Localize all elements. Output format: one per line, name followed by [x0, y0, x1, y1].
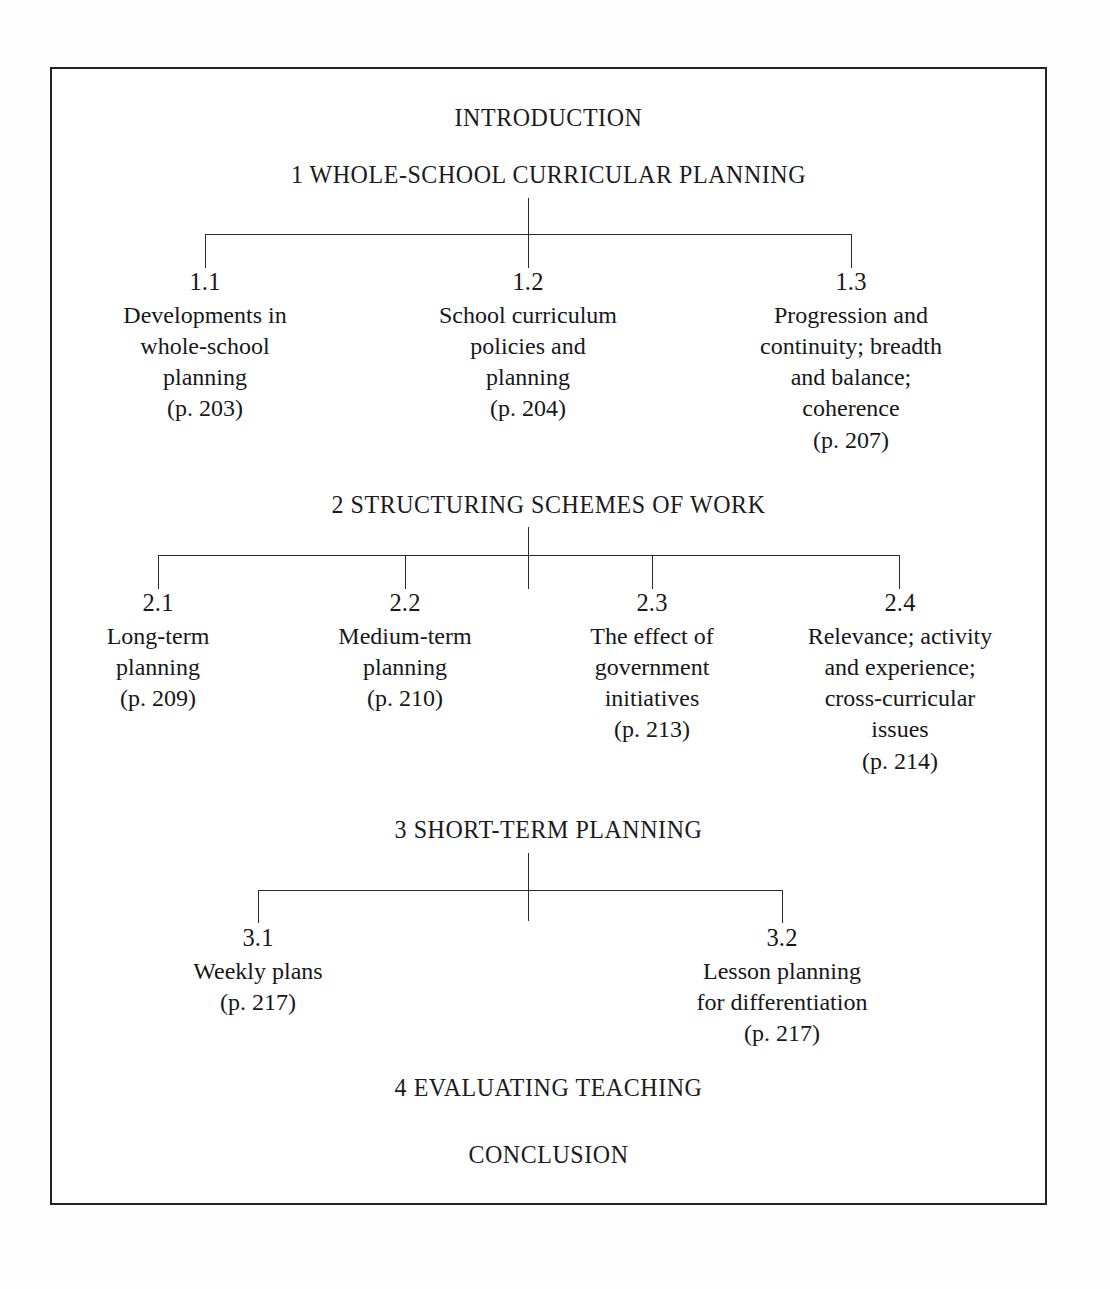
- node-2-2-line-2: planning: [295, 652, 515, 683]
- connector-drop-1-3: [851, 234, 852, 268]
- node-2-3-line-1: The effect of: [544, 621, 760, 652]
- node-3-2-page-ref: (p. 217): [660, 1018, 904, 1049]
- connector-drop-2-2: [405, 555, 406, 589]
- node-3-1: 3.1 Weekly plans (p. 217): [148, 922, 368, 1018]
- node-2-4-line-4: issues: [778, 714, 1022, 745]
- page-canvas: INTRODUCTION 1 WHOLE-SCHOOL CURRICULAR P…: [0, 0, 1110, 1289]
- node-1-3-line-1: Progression and: [731, 300, 971, 331]
- node-1-3: 1.3 Progression and continuity; breadth …: [731, 266, 971, 456]
- node-2-3-line-2: government: [544, 652, 760, 683]
- connector-drop-2-1: [158, 555, 159, 589]
- heading-section-1: 1 WHOLE-SCHOOL CURRICULAR PLANNING: [82, 162, 1015, 189]
- node-2-3-body: The effect of government initiatives: [544, 621, 760, 715]
- node-2-3: 2.3 The effect of government initiatives…: [544, 587, 760, 746]
- heading-section-4: 4 EVALUATING TEACHING: [82, 1075, 1015, 1102]
- node-3-2-line-1: Lesson planning: [660, 956, 904, 987]
- connector-stem-section-2: [528, 527, 529, 589]
- node-1-1-line-2: whole-school: [90, 331, 320, 362]
- node-2-3-page-ref: (p. 213): [544, 714, 760, 745]
- node-1-3-line-4: coherence: [731, 393, 971, 424]
- node-2-1-number: 2.1: [53, 587, 263, 619]
- node-1-1-page-ref: (p. 203): [90, 393, 320, 424]
- node-2-4-line-1: Relevance; activity: [778, 621, 1022, 652]
- node-3-2-number: 3.2: [660, 922, 904, 954]
- connector-bar-section-1: [205, 234, 851, 235]
- node-2-4-line-3: cross-curricular: [778, 683, 1022, 714]
- node-1-3-body: Progression and continuity; breadth and …: [731, 300, 971, 425]
- node-2-2: 2.2 Medium-term planning (p. 210): [295, 587, 515, 714]
- node-2-2-body: Medium-term planning: [295, 621, 515, 683]
- node-1-2-line-1: School curriculum: [413, 300, 643, 331]
- node-3-2-line-2: for differentiation: [660, 987, 904, 1018]
- node-2-4-line-2: and experience;: [778, 652, 1022, 683]
- node-1-2-line-3: planning: [413, 362, 643, 393]
- node-1-1-number: 1.1: [90, 266, 320, 298]
- node-1-1-line-1: Developments in: [90, 300, 320, 331]
- node-3-1-body: Weekly plans: [148, 956, 368, 987]
- node-2-1-body: Long-term planning: [53, 621, 263, 683]
- connector-drop-1-1: [205, 234, 206, 268]
- node-2-2-line-1: Medium-term: [295, 621, 515, 652]
- node-1-1-body: Developments in whole-school planning: [90, 300, 320, 394]
- connector-drop-2-4: [899, 555, 900, 589]
- node-2-4-number: 2.4: [778, 587, 1022, 619]
- node-2-2-page-ref: (p. 210): [295, 683, 515, 714]
- node-3-2-body: Lesson planning for differentiation: [660, 956, 904, 1018]
- node-1-1-line-3: planning: [90, 362, 320, 393]
- node-1-3-line-2: continuity; breadth: [731, 331, 971, 362]
- document-border-frame: INTRODUCTION 1 WHOLE-SCHOOL CURRICULAR P…: [50, 67, 1047, 1205]
- connector-stem-section-3: [528, 853, 529, 921]
- heading-section-3: 3 SHORT-TERM PLANNING: [82, 817, 1015, 844]
- node-3-1-page-ref: (p. 217): [148, 987, 368, 1018]
- node-3-1-number: 3.1: [148, 922, 368, 954]
- connector-bar-section-2: [158, 555, 899, 556]
- node-2-1-line-1: Long-term: [53, 621, 263, 652]
- connector-bar-section-3: [258, 890, 782, 891]
- node-1-2: 1.2 School curriculum policies and plann…: [413, 266, 643, 425]
- node-2-4: 2.4 Relevance; activity and experience; …: [778, 587, 1022, 777]
- heading-section-2: 2 STRUCTURING SCHEMES OF WORK: [82, 492, 1015, 519]
- node-3-1-line-1: Weekly plans: [148, 956, 368, 987]
- node-1-2-body: School curriculum policies and planning: [413, 300, 643, 394]
- heading-conclusion: CONCLUSION: [82, 1142, 1015, 1169]
- node-1-2-number: 1.2: [413, 266, 643, 298]
- connector-drop-3-1: [258, 890, 259, 923]
- node-2-1-line-2: planning: [53, 652, 263, 683]
- node-1-3-number: 1.3: [731, 266, 971, 298]
- connector-stem-section-1: [528, 198, 529, 268]
- connector-drop-2-3: [652, 555, 653, 589]
- node-2-2-number: 2.2: [295, 587, 515, 619]
- node-1-1: 1.1 Developments in whole-school plannin…: [90, 266, 320, 425]
- node-2-4-body: Relevance; activity and experience; cros…: [778, 621, 1022, 746]
- node-2-1-page-ref: (p. 209): [53, 683, 263, 714]
- connector-drop-3-2: [782, 890, 783, 923]
- node-1-3-page-ref: (p. 207): [731, 425, 971, 456]
- heading-introduction: INTRODUCTION: [82, 105, 1015, 132]
- node-2-3-line-3: initiatives: [544, 683, 760, 714]
- node-2-1: 2.1 Long-term planning (p. 209): [53, 587, 263, 714]
- node-2-3-number: 2.3: [544, 587, 760, 619]
- node-3-2: 3.2 Lesson planning for differentiation …: [660, 922, 904, 1049]
- node-1-2-line-2: policies and: [413, 331, 643, 362]
- node-1-2-page-ref: (p. 204): [413, 393, 643, 424]
- node-2-4-page-ref: (p. 214): [778, 746, 1022, 777]
- node-1-3-line-3: and balance;: [731, 362, 971, 393]
